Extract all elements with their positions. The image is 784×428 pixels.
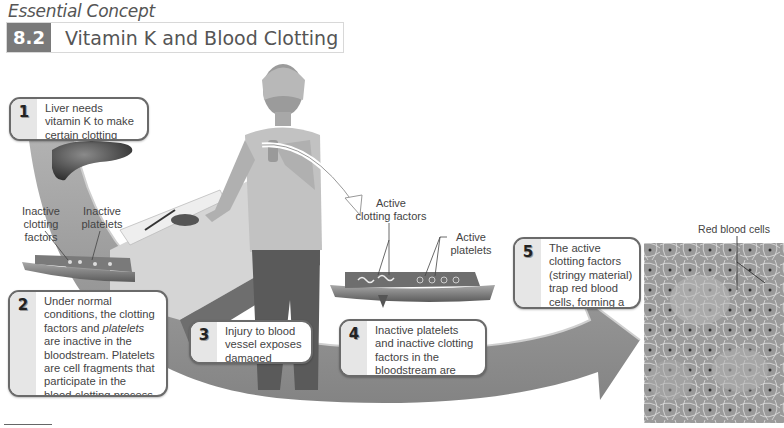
step-text-3: Injury to blood vessel exposes damaged t… [217,322,311,362]
step-text-5: The active clotting factors (stringy mat… [541,239,639,307]
step-number-3: 3 [191,322,217,362]
step-number-2: 2 [10,292,36,395]
label-line: platelets [80,218,124,231]
step-number-1: 1 [11,99,37,139]
step-number-4: 4 [341,321,367,375]
step-number-5: 5 [515,239,541,307]
label-line: Active [448,231,494,244]
step-box-4: 4 Inactive platelets and inactive clotti… [339,319,487,377]
label-red-blood-cells: Red blood cells [686,223,782,236]
step-text-2-part: are inactive in the bloodstream. Platele… [44,335,156,397]
label-active-platelets: Active platelets [448,231,494,257]
step-box-5: 5 The active clotting factors (stringy m… [513,237,641,309]
step-box-2: 2 Under normal conditions, the clotting … [8,290,168,397]
clot-micrograph [644,236,784,423]
footer-divider [4,424,52,425]
label-inactive-clotting-factors: Inactive clotting factors [6,205,76,244]
step-text-2: Under normal conditions, the clotting fa… [36,292,166,395]
label-active-clotting-factors: Active clotting factors [354,197,428,223]
label-line: platelets [448,244,494,257]
label-inactive-platelets: Inactive platelets [80,205,124,231]
step-box-3: 3 Injury to blood vessel exposes damaged… [189,320,313,364]
label-line: Inactive [80,205,124,218]
label-line: clotting factors [6,218,76,244]
label-line: Inactive [6,205,76,218]
step-text-1: Liver needs vitamin K to make certain cl… [37,99,147,139]
step-box-1: 1 Liver needs vitamin K to make certain … [9,97,149,141]
platelets-term: platelets [102,322,144,334]
step-text-4: Inactive platelets and inactive clotting… [367,321,485,375]
label-line: Active [354,197,428,210]
label-line: clotting factors [354,210,428,223]
liver-illustration [52,141,132,180]
